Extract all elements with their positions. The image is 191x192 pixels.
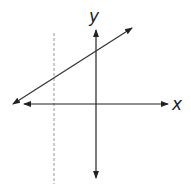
diagram-canvas: y x: [0, 0, 191, 192]
coordinate-plane-diagram: y x: [0, 0, 191, 192]
y-axis-label: y: [88, 6, 100, 26]
x-axis-label: x: [171, 94, 183, 114]
sloped-line: [13, 28, 132, 104]
